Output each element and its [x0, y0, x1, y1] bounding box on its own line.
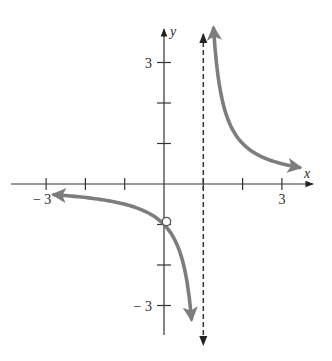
- x-axis: [11, 178, 313, 190]
- y-axis: [157, 29, 171, 335]
- curve-left-branch: [54, 195, 192, 319]
- curve-right-branch: [214, 28, 300, 167]
- open-circle-hole: [162, 217, 170, 225]
- x-axis-label: x: [303, 166, 311, 181]
- y-tick-label: − 3: [134, 299, 152, 314]
- x-tick-label: 3: [278, 192, 285, 207]
- y-tick-label: 3: [145, 56, 152, 71]
- y-axis-label: y: [168, 24, 177, 39]
- function-graph: x y − 33 3− 3: [0, 0, 332, 361]
- x-tick-label: − 3: [33, 192, 51, 207]
